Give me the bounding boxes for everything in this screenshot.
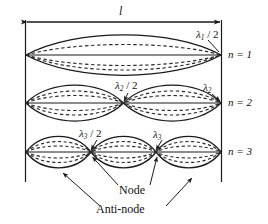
leader-node-right bbox=[150, 157, 157, 185]
lambda2-label: λ2 bbox=[203, 82, 211, 95]
mode-n3 bbox=[26, 136, 221, 168]
mode-label-n3: n = 3 bbox=[228, 146, 252, 157]
length-label: l bbox=[119, 5, 122, 17]
leader-lambda2 bbox=[212, 94, 220, 101]
mode-label-n1: n = 1 bbox=[228, 49, 252, 60]
lambda1-half-label: λ1 / 2 bbox=[196, 29, 218, 42]
mode-label-n2: n = 2 bbox=[228, 97, 252, 108]
wave-dashed-n1-c bbox=[26, 55, 221, 70]
leader-antinode-right bbox=[166, 178, 192, 206]
lambda3-half-tail: / 2 bbox=[87, 127, 101, 139]
standing-wave-figure: l λ1 / 2 n = 1 λ2 / 2 λ2 n = 2 λ3 / 2 λ3… bbox=[0, 0, 268, 224]
lambda1-half-tail: / 2 bbox=[204, 28, 218, 40]
lambda2-half-label: λ2 / 2 bbox=[115, 80, 137, 93]
lambda2-subscript: 2 bbox=[208, 87, 212, 95]
wave-dashed-n1-a bbox=[26, 45, 221, 56]
lambda2-half-tail: / 2 bbox=[123, 79, 137, 91]
node-label: Node bbox=[119, 184, 145, 196]
lambda3-label: λ3 bbox=[153, 129, 161, 142]
antinode-label: Anti-node bbox=[96, 203, 145, 215]
lambda3-half-label: λ3 / 2 bbox=[79, 128, 101, 141]
lambda3-subscript: 3 bbox=[158, 134, 162, 142]
leader-node-left bbox=[93, 157, 119, 185]
mode-n1 bbox=[26, 35, 221, 76]
leader-antinode-left bbox=[63, 173, 100, 206]
